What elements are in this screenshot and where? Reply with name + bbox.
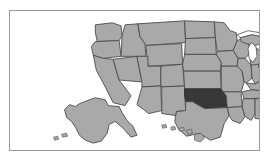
- state-north-dakota[interactable]: [185, 21, 216, 39]
- state-indiana[interactable]: [251, 64, 259, 84]
- us-map[interactable]: [10, 11, 259, 150]
- state-colorado[interactable]: [161, 64, 185, 87]
- hawaii-island-molokai: [179, 127, 185, 131]
- hawaii-island-maui: [187, 129, 193, 134]
- state-nebraska[interactable]: [183, 54, 222, 71]
- state-arizona[interactable]: [137, 86, 162, 114]
- state-washington[interactable]: [95, 23, 122, 42]
- state-kentucky[interactable]: [246, 81, 259, 91]
- alaska-aleutian-islet-1: [62, 133, 68, 137]
- state-wyoming[interactable]: [146, 44, 183, 67]
- state-minnesota[interactable]: [214, 22, 237, 52]
- screenshot-root: [0, 0, 271, 165]
- state-alabama[interactable]: [255, 99, 259, 120]
- hawaii-island-kauai: [162, 124, 167, 128]
- hawaii-island-oahu: [171, 126, 176, 130]
- state-tennessee[interactable]: [242, 90, 259, 99]
- alaska-aleutian-islet-2: [54, 136, 59, 140]
- state-south-dakota[interactable]: [185, 38, 217, 55]
- state-montana[interactable]: [138, 21, 186, 46]
- state-kansas[interactable]: [184, 71, 222, 89]
- map-frame: [9, 10, 260, 151]
